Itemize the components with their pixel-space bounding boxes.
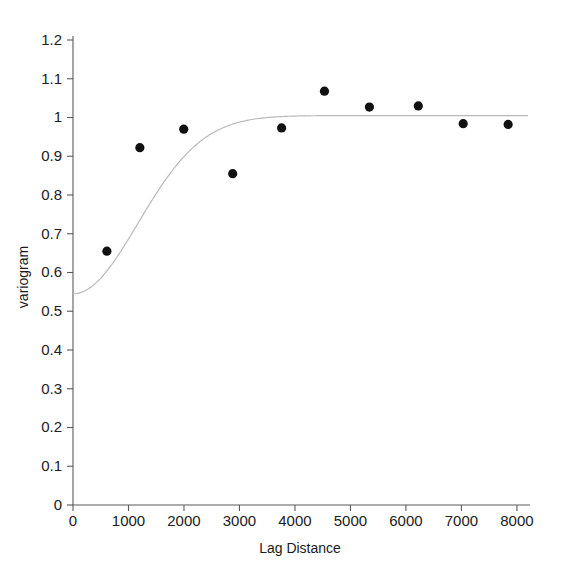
y-tick-label: 1.1 [41,70,62,87]
x-tick-label: 1000 [112,512,145,529]
x-tick-label: 3000 [223,512,256,529]
data-points [102,87,512,256]
y-tick-label: 0.4 [41,341,62,358]
y-axis-title: variogram [15,246,31,308]
y-tick-label: 0.9 [41,147,62,164]
data-point [179,125,188,134]
data-point [135,143,144,152]
y-tick-label: 1 [54,108,62,125]
y-tick-label: 0.7 [41,225,62,242]
x-axis-title: Lag Distance [259,540,341,556]
x-tick-label: 5000 [334,512,367,529]
data-point [228,169,237,178]
y-tick-label: 1.2 [41,31,62,48]
x-tick-label: 0 [69,512,77,529]
x-axis-ticks: 010002000300040005000600070008000 [69,505,534,529]
y-tick-label: 0.3 [41,380,62,397]
fitted-model-curve [73,116,528,294]
x-tick-label: 6000 [389,512,422,529]
data-point [504,120,513,129]
y-axis-ticks: 00.10.20.30.40.50.60.70.80.911.11.2 [41,31,73,513]
y-tick-label: 0.1 [41,457,62,474]
data-point [320,87,329,96]
data-point [459,119,468,128]
y-tick-label: 0.2 [41,418,62,435]
y-tick-label: 0.6 [41,263,62,280]
x-tick-label: 4000 [278,512,311,529]
data-point [365,102,374,111]
data-point [277,123,286,132]
x-tick-label: 7000 [445,512,478,529]
y-tick-label: 0 [54,496,62,513]
y-tick-label: 0.5 [41,302,62,319]
x-tick-label: 8000 [500,512,533,529]
y-tick-label: 0.8 [41,186,62,203]
chart-svg: 00.10.20.30.40.50.60.70.80.911.11.2 0100… [0,0,562,582]
variogram-chart: 00.10.20.30.40.50.60.70.80.911.11.2 0100… [0,0,562,582]
x-tick-label: 2000 [167,512,200,529]
data-point [414,101,423,110]
data-point [102,247,111,256]
